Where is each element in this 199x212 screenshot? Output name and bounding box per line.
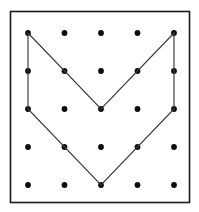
peg-dot xyxy=(98,144,104,150)
peg-dot xyxy=(62,106,68,112)
peg-dot xyxy=(135,30,141,36)
peg-dot xyxy=(171,144,177,150)
peg-dot xyxy=(171,182,177,188)
geoboard-figure xyxy=(0,0,199,212)
peg-dot xyxy=(135,106,141,112)
peg-dot xyxy=(25,144,31,150)
peg-dot xyxy=(25,182,31,188)
peg-dot xyxy=(62,182,68,188)
peg-dot xyxy=(98,68,104,74)
geoboard-canvas xyxy=(0,0,199,212)
peg-dot xyxy=(135,182,141,188)
peg-dot xyxy=(98,30,104,36)
peg-dot xyxy=(62,30,68,36)
